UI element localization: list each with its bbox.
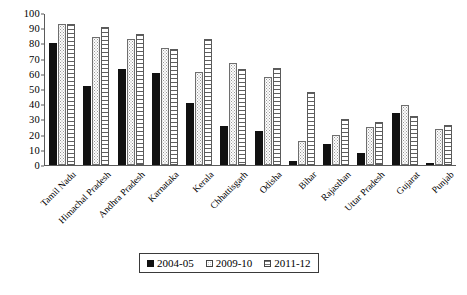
bar — [357, 153, 365, 165]
bar-group — [251, 14, 285, 165]
y-axis-tick-mark — [41, 105, 44, 106]
y-axis-tick-mark — [41, 150, 44, 151]
bar — [435, 129, 443, 165]
y-axis-tick-mark — [41, 59, 44, 60]
bar-group — [148, 14, 182, 165]
bar-group — [319, 14, 353, 165]
bar — [67, 24, 75, 165]
bar — [375, 122, 383, 165]
y-axis-tick-mark — [41, 166, 44, 167]
bar-group — [45, 14, 79, 165]
bar — [101, 27, 109, 165]
y-axis-tick-mark — [41, 74, 44, 75]
y-axis-tick-mark — [41, 90, 44, 91]
bar-group — [353, 14, 387, 165]
legend-swatch-2011-12-icon — [264, 260, 271, 267]
bar — [195, 72, 203, 165]
bar — [392, 113, 400, 165]
bar — [307, 92, 315, 165]
bar — [341, 119, 349, 165]
bar — [273, 68, 281, 165]
legend-label: 2004-05 — [157, 257, 194, 269]
y-axis-tick-mark — [41, 135, 44, 136]
x-axis-labels: Tamil NaduHimachal PradeshAndhra Pradesh… — [45, 168, 457, 230]
bar-group — [285, 14, 319, 165]
bar — [410, 116, 418, 165]
y-axis-tick-mark — [41, 120, 44, 121]
bar — [136, 34, 144, 165]
bar — [127, 39, 135, 165]
bar — [49, 43, 57, 165]
bar-group — [422, 14, 456, 165]
bar-group — [388, 14, 422, 165]
legend-swatch-2004-05-icon — [147, 260, 154, 267]
bar — [152, 73, 160, 165]
bar — [401, 105, 409, 165]
bar — [332, 135, 340, 165]
bar — [298, 141, 306, 165]
legend-item: 2004-05 — [147, 257, 194, 269]
bar — [289, 161, 297, 165]
bar — [204, 39, 212, 165]
bar — [161, 48, 169, 165]
bar — [170, 49, 178, 165]
y-axis-tick-mark — [41, 44, 44, 45]
legend-item: 2009-10 — [206, 257, 253, 269]
bar-group — [182, 14, 216, 165]
y-axis-tick-mark — [41, 14, 44, 15]
x-axis-line — [44, 165, 456, 166]
legend-swatch-2009-10-icon — [206, 260, 213, 267]
bar — [255, 131, 263, 165]
bar-groups — [45, 14, 456, 165]
bar — [118, 69, 126, 165]
legend-label: 2011-12 — [274, 257, 310, 269]
bar — [229, 63, 237, 165]
y-axis-tick-mark — [41, 29, 44, 30]
bar — [58, 24, 66, 165]
bar — [426, 163, 434, 165]
bar — [92, 37, 100, 165]
bar — [323, 144, 331, 165]
bar — [264, 77, 272, 165]
bar-chart: 0102030405060708090100 Tamil NaduHimacha… — [0, 0, 467, 295]
bar — [366, 127, 374, 165]
bar — [83, 86, 91, 165]
bar-group — [79, 14, 113, 165]
bar — [186, 103, 194, 165]
bar — [238, 69, 246, 165]
legend-label: 2009-10 — [216, 257, 253, 269]
bar-group — [114, 14, 148, 165]
chart-legend: 2004-05 2009-10 2011-12 — [139, 253, 319, 273]
bar — [220, 126, 228, 165]
bar — [444, 125, 452, 165]
plot-area: 0102030405060708090100 — [44, 14, 456, 166]
legend-item: 2011-12 — [264, 257, 310, 269]
bar-group — [216, 14, 250, 165]
